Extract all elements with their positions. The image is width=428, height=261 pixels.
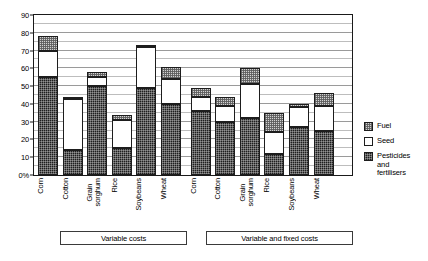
x-axis-label-soybeans: Soybeans <box>135 178 155 211</box>
x-axis-label-rice: Rice <box>263 178 283 193</box>
plot-area <box>33 14 353 176</box>
legend-item-seed[interactable]: Seed <box>364 137 428 146</box>
y-axis-tick-label: 40 <box>21 99 29 108</box>
legend-label: Seed <box>377 137 394 146</box>
legend-item-fuel[interactable]: Fuel <box>364 122 428 131</box>
bar-segment-fuel <box>289 104 309 108</box>
bar-segment-fuel <box>191 88 211 97</box>
legend-label: Pesticides and fertilisers <box>377 152 410 178</box>
x-axis-label-soybeans: Soybeans <box>288 178 308 211</box>
bar-segment-pest <box>264 154 284 175</box>
y-axis-tick-label: 20 <box>21 135 29 144</box>
bar-segment-fuel <box>87 72 107 77</box>
legend-swatch-seed-icon <box>364 137 373 146</box>
y-axis-tick-label: 80 <box>21 28 29 37</box>
group-label-variable-costs: Variable costs <box>60 231 187 245</box>
bar-segment-seed <box>314 106 334 131</box>
bar-segment-pest <box>136 88 156 175</box>
bar-segment-pest <box>215 122 235 175</box>
bar-segment-pest <box>63 150 83 175</box>
y-axis-tick-label: 10 <box>21 153 29 162</box>
bar-segment-seed <box>289 107 309 127</box>
bar-segment-seed <box>136 47 156 88</box>
x-axis-labels: CornCottonGrain sorghumRiceSoybeansWheat… <box>0 178 360 230</box>
bar-segment-fuel <box>314 93 334 105</box>
x-axis-label-cotton: Cotton <box>62 178 82 200</box>
bar-segment-pest <box>314 131 334 175</box>
bar-segment-pest <box>191 111 211 175</box>
bar-segment-fuel <box>264 113 284 133</box>
bar-segment-pest <box>289 127 309 175</box>
y-axis-tick-label: 60 <box>21 64 29 73</box>
x-axis-label-rice: Rice <box>111 178 131 193</box>
x-axis-label-wheat: Wheat <box>160 178 180 199</box>
x-axis-label-corn: Corn <box>190 178 210 194</box>
bar-series-container <box>34 15 352 175</box>
bar-segment-fuel <box>161 67 181 79</box>
bar-segment-seed <box>191 97 211 111</box>
x-axis-label-grain-sorghum: Grain sorghum <box>239 178 259 206</box>
x-axis-label-cotton: Cotton <box>214 178 234 200</box>
bar-segment-seed <box>161 79 181 104</box>
y-axis-tick-label: 50 <box>21 82 29 91</box>
group-label-variable-and-fixed-costs: Variable and fixed costs <box>206 231 353 245</box>
y-axis-tick-label: 90 <box>21 11 29 20</box>
y-axis: 9080706050403020100% <box>0 0 33 190</box>
bar-segment-pest <box>240 118 260 175</box>
bar-segment-pest <box>161 104 181 175</box>
legend-label: Fuel <box>377 122 391 131</box>
legend-swatch-pest-icon <box>364 152 373 161</box>
y-axis-tick-label: 30 <box>21 117 29 126</box>
y-axis-tick-label: 70 <box>21 46 29 55</box>
bar-segment-fuel <box>112 115 132 120</box>
bar-segment-seed <box>87 77 107 86</box>
bar-segment-seed <box>38 51 58 78</box>
x-axis-label-corn: Corn <box>37 178 57 194</box>
x-axis-label-wheat: Wheat <box>313 178 333 199</box>
bar-segment-pest <box>38 77 58 175</box>
bar-segment-fuel <box>136 45 156 47</box>
legend-item-pest[interactable]: Pesticides and fertilisers <box>364 152 428 178</box>
bar-segment-seed <box>264 132 284 153</box>
bar-segment-fuel <box>38 36 58 50</box>
x-axis-label-grain-sorghum: Grain sorghum <box>86 178 106 206</box>
bar-segment-pest <box>112 148 132 175</box>
chart-legend: FuelSeedPesticides and fertilisers <box>364 122 428 184</box>
bar-segment-seed <box>215 106 235 122</box>
bar-segment-fuel <box>240 68 260 84</box>
bar-segment-fuel <box>63 97 83 99</box>
bar-segment-seed <box>240 84 260 118</box>
bar-segment-seed <box>112 120 132 148</box>
legend-swatch-fuel-icon <box>364 122 373 131</box>
bar-segment-seed <box>63 99 83 151</box>
bar-segment-pest <box>87 86 107 175</box>
bar-segment-fuel <box>215 97 235 106</box>
